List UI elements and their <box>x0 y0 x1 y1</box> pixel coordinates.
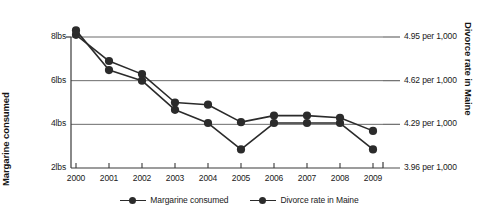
y-axis-right-tick-label: 4.62 per 1,000 <box>404 75 457 85</box>
data-point-marker <box>237 145 245 153</box>
data-point-marker <box>369 127 377 135</box>
axis-lines-group <box>66 37 383 168</box>
legend-label: Margarine consumed <box>150 195 228 205</box>
legend-marker-icon <box>250 196 276 205</box>
series-line <box>76 30 373 149</box>
x-tick-marks-group <box>76 163 373 168</box>
chart-legend: Margarine consumedDivorce rate in Maine <box>0 195 479 205</box>
data-point-marker <box>171 106 179 114</box>
data-point-marker <box>138 77 146 85</box>
data-point-marker <box>105 66 113 74</box>
y-axis-left-tick-label: 4lbs <box>22 118 66 128</box>
y-axis-left-tick-label: 8lbs <box>22 31 66 41</box>
data-point-marker <box>204 119 212 127</box>
data-point-marker <box>270 112 278 120</box>
x-axis-tick-label: 2009 <box>353 173 393 183</box>
data-point-marker <box>369 145 377 153</box>
data-point-marker <box>171 98 179 106</box>
y-axis-right-tick-label: 4.29 per 1,000 <box>404 118 457 128</box>
data-point-marker <box>303 119 311 127</box>
y-axis-left-tick-label: 2lbs <box>22 162 66 172</box>
data-point-marker <box>204 101 212 109</box>
legend-item[interactable]: Margarine consumed <box>120 195 228 205</box>
data-point-marker <box>336 119 344 127</box>
legend-marker-icon <box>120 196 146 205</box>
series-line <box>76 35 373 131</box>
data-point-marker <box>105 57 113 65</box>
gridlines-group <box>71 37 400 168</box>
y-axis-right-tick-label: 3.96 per 1,000 <box>404 162 457 172</box>
data-point-marker <box>72 26 80 34</box>
chart-container: Margarine consumed Divorce rate in Maine… <box>0 0 479 218</box>
legend-label: Divorce rate in Maine <box>280 195 358 205</box>
data-point-marker <box>270 119 278 127</box>
legend-item[interactable]: Divorce rate in Maine <box>250 195 358 205</box>
y-axis-right-tick-label: 4.95 per 1,000 <box>404 31 457 41</box>
series-group <box>72 26 377 153</box>
y-axis-left-tick-label: 6lbs <box>22 75 66 85</box>
data-point-marker <box>237 118 245 126</box>
data-point-marker <box>303 112 311 120</box>
